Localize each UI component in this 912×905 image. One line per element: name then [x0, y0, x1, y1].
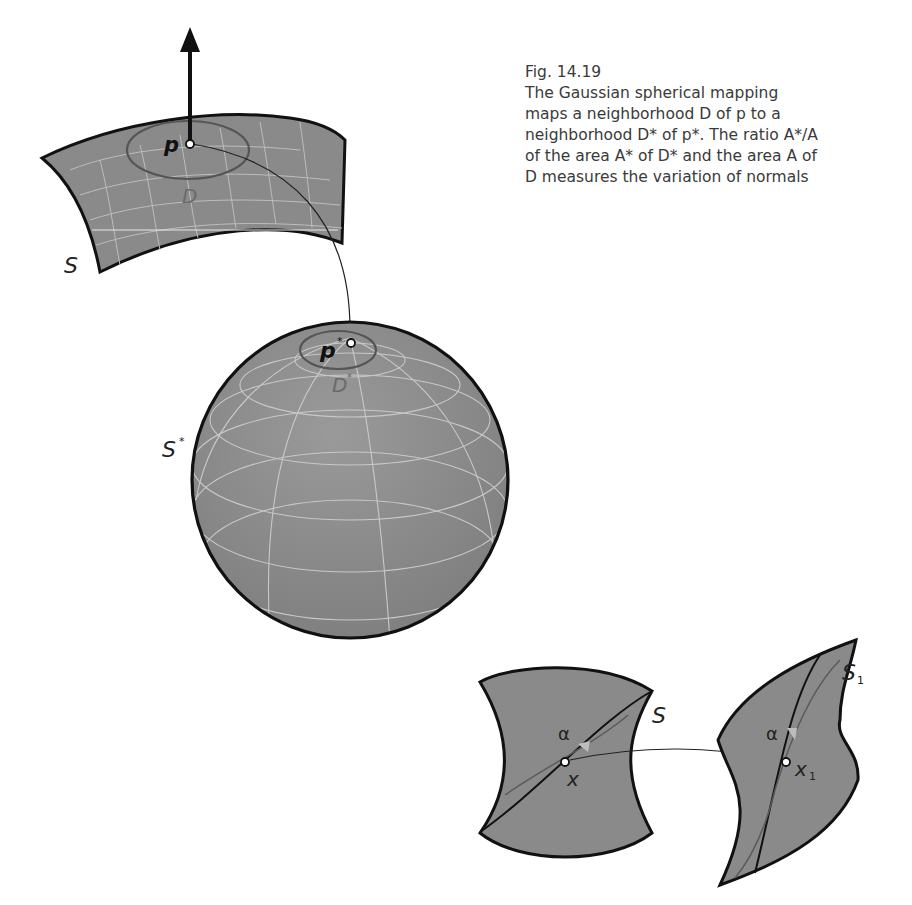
label-d: D	[182, 184, 197, 208]
label-p: p	[163, 133, 179, 157]
point-x	[561, 758, 569, 766]
label-alpha-mapped: α	[766, 723, 778, 744]
caption-line-1: The Gaussian spherical mapping	[525, 83, 905, 104]
label-d-star-sup: *	[347, 372, 352, 383]
point-p-star	[347, 339, 355, 347]
caption-line-3: neighborhood D* of p*. The ratio A*/A	[525, 125, 905, 146]
sphere-s-star	[192, 322, 508, 640]
label-s1: S	[842, 660, 856, 685]
label-x1-sub: 1	[809, 770, 816, 783]
mapped-surface-s1	[718, 640, 858, 885]
label-x1: x	[794, 757, 807, 781]
label-s-hyperboloid: S	[652, 703, 666, 728]
hyperboloid-surface	[480, 668, 652, 857]
label-p-star: p	[319, 338, 336, 363]
label-x: x	[566, 767, 579, 791]
caption-line-4: of the area A* of D* and the area A of	[525, 146, 905, 167]
label-p-star-sup: *	[337, 335, 343, 348]
label-d-star: D	[332, 373, 347, 397]
label-s: S	[64, 253, 78, 278]
caption-line-2: maps a neighborhood D of p to a	[525, 104, 905, 125]
figure-number: Fig. 14.19	[525, 62, 905, 83]
caption-line-5: D measures the variation of normals	[525, 167, 905, 188]
label-s-star: S	[162, 437, 176, 462]
label-alpha: α	[558, 723, 570, 744]
label-s1-sub: 1	[857, 674, 864, 687]
label-s-star-sup: *	[179, 435, 185, 448]
point-x1	[782, 758, 790, 766]
figure-caption: Fig. 14.19 The Gaussian spherical mappin…	[525, 62, 905, 188]
point-p	[186, 140, 194, 148]
